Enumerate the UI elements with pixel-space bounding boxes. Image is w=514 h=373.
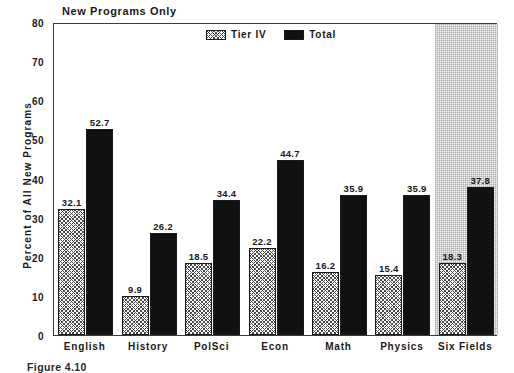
bar-tier-iv-math: 16.2	[312, 272, 339, 335]
figure-container: New Programs Only Percent of All New Pro…	[0, 0, 514, 373]
legend-swatch-hatch	[206, 30, 226, 40]
bar-value-label: 35.9	[344, 183, 364, 194]
y-tick-label: 30	[18, 213, 44, 224]
bar-tier-iv-polsci: 18.5	[185, 263, 212, 335]
bar-value-label: 18.5	[189, 251, 209, 262]
y-tick-label: 70	[18, 57, 44, 68]
bar-value-label: 9.9	[128, 284, 142, 295]
bar-total-math: 35.9	[340, 195, 367, 335]
legend-label: Tier IV	[231, 29, 266, 40]
x-tick-label-polsci: PolSci	[194, 341, 229, 352]
bar-tier-iv-english: 32.1	[58, 209, 85, 335]
bar-value-label: 16.2	[316, 260, 336, 271]
bar-tier-iv-physics: 15.4	[375, 275, 402, 335]
bar-total-six-fields: 37.8	[467, 187, 494, 335]
bar-total-physics: 35.9	[403, 195, 430, 335]
bar-total-polsci: 34.4	[213, 200, 240, 335]
x-tick-label-six-fields: Six Fields	[438, 341, 493, 352]
bar-value-label: 18.3	[442, 251, 462, 262]
chart-legend: Tier IVTotal	[206, 29, 336, 40]
bar-tier-iv-history: 9.9	[122, 296, 149, 335]
bar-total-history: 26.2	[150, 233, 177, 336]
bar-value-label: 35.9	[407, 183, 427, 194]
legend-swatch-solid	[284, 30, 304, 40]
bar-value-label: 37.8	[470, 175, 490, 186]
legend-entry-total: Total	[284, 29, 336, 40]
bar-value-label: 52.7	[90, 117, 110, 128]
x-tick-label-econ: Econ	[261, 341, 289, 352]
y-tick-label: 20	[18, 252, 44, 263]
bar-total-econ: 44.7	[277, 160, 304, 335]
bar-value-label: 34.4	[217, 188, 237, 199]
bar-value-label: 44.7	[280, 148, 300, 159]
x-tick-label-physics: Physics	[380, 341, 423, 352]
figure-caption: Figure 4.10	[27, 361, 87, 373]
chart-title: New Programs Only	[62, 5, 177, 17]
x-tick-label-math: Math	[325, 341, 352, 352]
bar-value-label: 32.1	[62, 197, 82, 208]
bar-value-label: 15.4	[379, 263, 399, 274]
bar-value-label: 22.2	[252, 236, 272, 247]
y-tick-label: 10	[18, 291, 44, 302]
legend-label: Total	[309, 29, 336, 40]
bar-tier-iv-six-fields: 18.3	[439, 263, 466, 335]
plot-area: 32.152.79.926.218.534.422.244.716.235.91…	[53, 23, 497, 336]
x-tick-label-history: History	[128, 341, 168, 352]
bar-value-label: 26.2	[153, 221, 173, 232]
y-tick-label: 0	[18, 331, 44, 342]
x-tick-label-english: English	[64, 341, 106, 352]
y-tick-label: 50	[18, 135, 44, 146]
legend-entry-tier-iv: Tier IV	[206, 29, 266, 40]
y-tick-label: 40	[18, 174, 44, 185]
y-tick-label: 60	[18, 96, 44, 107]
bar-tier-iv-econ: 22.2	[249, 248, 276, 335]
bar-total-english: 52.7	[86, 129, 113, 335]
y-tick-label: 80	[18, 18, 44, 29]
